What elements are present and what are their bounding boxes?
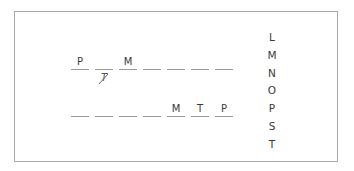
slot-letter: M	[167, 103, 185, 114]
bank-letter[interactable]: N	[264, 65, 280, 83]
bank-letter[interactable]: L	[264, 29, 280, 47]
slot-letter: M	[119, 56, 137, 67]
row2-slot-3[interactable]	[119, 97, 137, 117]
row2-slot-4[interactable]	[143, 97, 161, 117]
blank-line	[215, 116, 233, 117]
blank-line	[191, 69, 209, 70]
blank-line	[191, 116, 209, 117]
letter-bank: L M N O P S T	[264, 29, 280, 154]
row1-slot-5[interactable]	[167, 50, 185, 70]
bank-letter[interactable]: P	[264, 100, 280, 118]
slot-letter: P	[215, 103, 233, 114]
row1-slot-1[interactable]: P	[71, 50, 89, 70]
slot-letter: P	[71, 56, 89, 67]
bank-letter[interactable]: T	[264, 136, 280, 154]
blank-line	[95, 69, 113, 70]
puzzle-frame	[14, 11, 338, 162]
blank-line	[167, 116, 185, 117]
row2-slot-5[interactable]: M	[167, 97, 185, 117]
blank-line	[167, 69, 185, 70]
row1-slot-3[interactable]: M	[119, 50, 137, 70]
row1-slot-4[interactable]	[143, 50, 161, 70]
row2-slot-7[interactable]: P	[215, 97, 233, 117]
row1-slot-6[interactable]	[191, 50, 209, 70]
blank-line	[119, 116, 137, 117]
blank-line	[119, 69, 137, 70]
row2-slot-6[interactable]: T	[191, 97, 209, 117]
bank-letter[interactable]: M	[264, 47, 280, 65]
blank-line	[215, 69, 233, 70]
row1-slot-2[interactable]	[95, 50, 113, 70]
strike-icon	[95, 72, 113, 86]
blank-line	[71, 116, 89, 117]
row2-slot-1[interactable]	[71, 97, 89, 117]
row1-slot-7[interactable]	[215, 50, 233, 70]
crossed-out-letter: T	[95, 72, 113, 86]
slot-letter: T	[191, 103, 209, 114]
blank-line	[71, 69, 89, 70]
bank-letter[interactable]: S	[264, 118, 280, 136]
bank-letter[interactable]: O	[264, 82, 280, 100]
blank-line	[95, 116, 113, 117]
row2-slot-2[interactable]	[95, 97, 113, 117]
blank-line	[143, 116, 161, 117]
blank-line	[143, 69, 161, 70]
